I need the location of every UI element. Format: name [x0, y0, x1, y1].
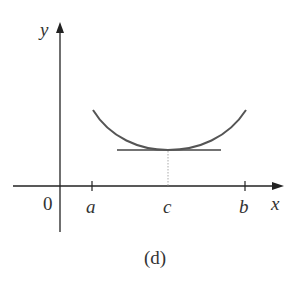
y-axis-arrow-icon [56, 22, 64, 33]
y-axis-label: y [38, 19, 49, 40]
tick-label-b: b [239, 196, 249, 217]
x-axis-arrow-icon [272, 182, 284, 190]
figure-caption: (d) [144, 247, 166, 269]
origin-label: 0 [43, 193, 53, 214]
function-curve [93, 110, 246, 150]
tick-label-c: c [163, 196, 172, 217]
tick-label-a: a [86, 196, 96, 217]
figure-canvas: y x 0 a c b (d) [0, 0, 304, 286]
x-axis-label: x [270, 193, 280, 214]
